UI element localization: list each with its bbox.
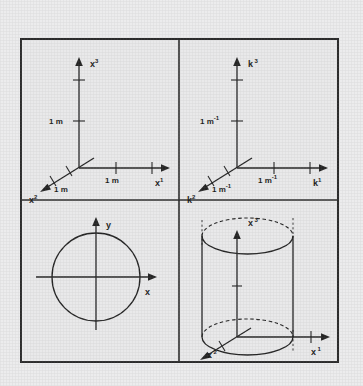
axis-label-k2: k2 [187, 194, 196, 205]
cylinder-axis-x3 [232, 230, 242, 337]
figure-frame: x3 x1 x2 1 m 1 m 1 m [20, 38, 339, 363]
axis-label-x: x [145, 287, 150, 297]
axis-k3-arrowhead [233, 57, 241, 66]
axis-label-x1: x1 [155, 177, 164, 188]
axis-label-y: y [106, 220, 111, 230]
cylinder-axis-label-x2: x2 [207, 349, 218, 360]
axis-k1 [237, 162, 328, 174]
cylinder-axis-x3-arrowhead [233, 230, 241, 239]
panel-reciprocal-space-axes: k3 k1 k2 1 m-1 1 m-1 1 m-1 [187, 57, 328, 205]
axis-x2-arrowhead [40, 184, 51, 192]
axis-label-x3: x3 [90, 58, 99, 69]
cylinder-bottom-back-arc [202, 319, 293, 337]
cylinder-top-front-arc [202, 236, 293, 254]
tick-label-x3: 1 m [49, 117, 63, 126]
figure-svg: x3 x1 x2 1 m 1 m 1 m [22, 40, 337, 361]
axis-x3 [73, 57, 85, 168]
axis-x1-arrowhead [161, 164, 170, 172]
tick-label-k3: 1 m-1 [200, 115, 220, 126]
axis-x1 [79, 162, 170, 174]
axis-label-x2: x2 [29, 194, 38, 205]
panel-cylinder: x3 x1 x2 [200, 217, 330, 360]
tick-label-k1: 1 m-1 [258, 174, 278, 185]
cylinder-axis-x1 [237, 331, 330, 343]
axis-x-arrowhead [148, 273, 157, 281]
cylinder-axis-x1-arrowhead [321, 333, 330, 341]
cylinder-axis-label-x1: x1 [311, 346, 322, 357]
panel-circle-plane: y x [36, 217, 157, 330]
cylinder-axis-x2-tick [219, 341, 225, 351]
axis-x3-arrowhead [75, 57, 83, 66]
panel-real-space-axes: x3 x1 x2 1 m 1 m 1 m [29, 57, 170, 205]
axis-k3 [231, 57, 243, 168]
axis-k1-arrowhead [319, 164, 328, 172]
tick-label-x1: 1 m [105, 176, 119, 185]
tick-label-x2: 1 m [54, 185, 68, 194]
tick-label-k2: 1 m-1 [212, 183, 232, 194]
axis-y [92, 217, 100, 330]
axis-y-arrowhead [92, 217, 100, 226]
axis-label-k1: k1 [313, 177, 322, 188]
axis-label-k3: k3 [248, 58, 259, 69]
axis-k2-arrowhead [198, 184, 209, 192]
panel-dividers [22, 40, 337, 361]
